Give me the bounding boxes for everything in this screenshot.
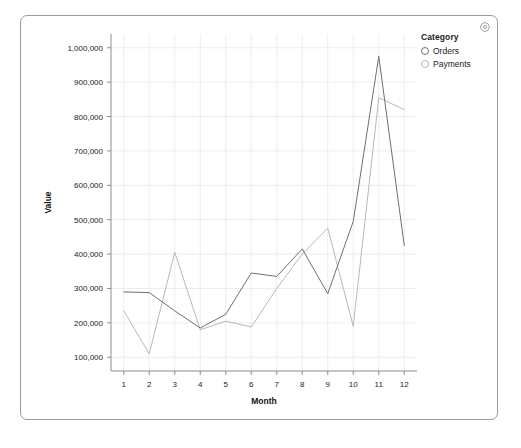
y-axis-tick-label: 700,000 xyxy=(74,147,103,156)
series-line-payments xyxy=(124,98,405,354)
x-axis-tick-label: 6 xyxy=(249,380,254,389)
chart-legend: Category Orders Payments xyxy=(421,32,493,72)
x-axis-tick-label: 1 xyxy=(122,380,127,389)
x-axis-tick-label: 5 xyxy=(224,380,229,389)
x-axis-tick-label: 11 xyxy=(375,380,384,389)
y-axis-title: Value xyxy=(43,191,53,213)
legend-item-payments[interactable]: Payments xyxy=(421,59,493,69)
y-axis-tick-label: 600,000 xyxy=(74,181,103,190)
screenshot-root: 100,000200,000300,000400,000500,000600,0… xyxy=(0,0,521,448)
y-axis-tick-label: 100,000 xyxy=(74,353,103,362)
x-axis-tick-label: 8 xyxy=(300,380,305,389)
y-axis-tick-label: 500,000 xyxy=(74,216,103,225)
legend-item-orders[interactable]: Orders xyxy=(421,46,493,56)
legend-title: Category xyxy=(421,32,493,42)
x-axis-tick-label: 2 xyxy=(147,380,152,389)
legend-item-label: Payments xyxy=(433,59,471,69)
y-axis-tick-label: 400,000 xyxy=(74,250,103,259)
x-axis-tick-label: 10 xyxy=(349,380,358,389)
line-chart: 100,000200,000300,000400,000500,000600,0… xyxy=(21,16,499,421)
x-axis-tick-label: 7 xyxy=(275,380,280,389)
x-axis-tick-label: 3 xyxy=(173,380,178,389)
y-axis-tick-label: 1,000,000 xyxy=(67,44,103,53)
chart-canvas: 100,000200,000300,000400,000500,000600,0… xyxy=(21,16,499,421)
y-axis-tick-label: 900,000 xyxy=(74,78,103,87)
circle-marker-icon xyxy=(421,60,429,68)
y-axis-tick-label: 300,000 xyxy=(74,284,103,293)
circle-marker-icon xyxy=(421,47,429,55)
y-axis-tick-label: 800,000 xyxy=(74,113,103,122)
x-axis-tick-label: 9 xyxy=(326,380,331,389)
x-axis-title: Month xyxy=(251,396,277,406)
legend-item-label: Orders xyxy=(433,46,459,56)
x-axis-tick-label: 4 xyxy=(198,380,203,389)
y-axis-tick-label: 200,000 xyxy=(74,319,103,328)
x-axis-tick-label: 12 xyxy=(400,380,409,389)
chart-card: 100,000200,000300,000400,000500,000600,0… xyxy=(20,15,498,420)
